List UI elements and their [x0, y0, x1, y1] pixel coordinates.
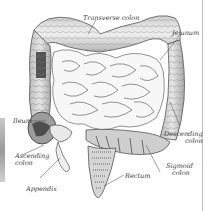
colon-anatomy-diagram: Transverse colon Jejunum Ileum Descendin… — [0, 0, 208, 211]
label-descending-colon: Descending colon — [164, 131, 203, 145]
appendix-shape — [56, 142, 70, 172]
small-intestine-shape — [52, 50, 164, 130]
label-descending-line2: colon — [164, 138, 203, 145]
label-jejunum: Jejunum — [172, 30, 199, 37]
rectum-shape — [88, 146, 116, 198]
label-ileum: Ileum — [13, 118, 32, 125]
ascending-colon-shape — [29, 30, 51, 124]
label-rectum: Rectum — [125, 173, 150, 180]
label-sigmoid-line2: colon — [166, 170, 193, 177]
label-ascending-colon: Ascending colon — [15, 153, 49, 167]
label-sigmoid-colon: Sigmoid colon — [166, 163, 193, 177]
label-appendix: Appendix — [26, 186, 57, 193]
label-ascending-line2: colon — [15, 160, 49, 167]
label-transverse-colon: Transverse colon — [83, 15, 139, 22]
